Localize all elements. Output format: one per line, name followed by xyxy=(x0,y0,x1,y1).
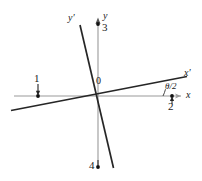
y-prime-axis-label: y′ xyxy=(68,13,75,23)
point-label-3: 3 xyxy=(102,22,108,33)
x-axis-label: x xyxy=(186,90,190,100)
y-axis-label: y xyxy=(103,11,107,21)
point-label-1: 1 xyxy=(34,73,40,84)
point-marker-3 xyxy=(96,22,100,26)
point-marker-4 xyxy=(96,165,100,169)
point-label-4: 4 xyxy=(89,160,95,171)
angle-label: θ/2 xyxy=(165,82,176,91)
point-label-2: 2 xyxy=(168,101,174,112)
origin-label: 0 xyxy=(96,76,101,86)
rotated-axes-figure: y 3 y′ x′ x θ/2 2 1 4 0 xyxy=(0,0,202,181)
x-prime-axis-label: x′ xyxy=(184,68,191,78)
